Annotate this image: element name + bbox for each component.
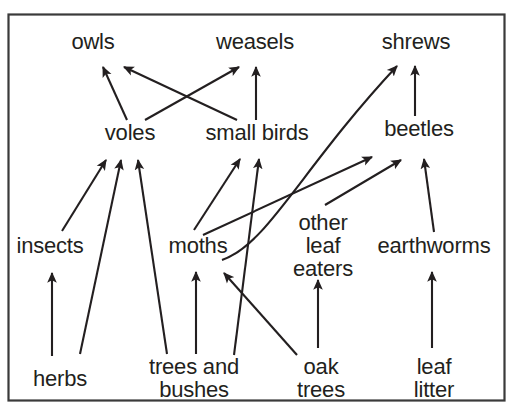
link-trees-bushes-small-birds [234, 159, 259, 355]
node-voles: voles [105, 121, 155, 144]
node-herbs: herbs [33, 367, 87, 390]
node-beetles: beetles [384, 117, 454, 140]
link-small-birds-owls [124, 67, 237, 120]
link-insects-voles [62, 160, 106, 231]
node-moths: moths [169, 234, 228, 257]
node-trees-and-bushes: trees and bushes [149, 355, 239, 401]
node-leaf-litter: leaf litter [414, 355, 454, 401]
link-voles-owls [103, 67, 127, 120]
link-voles-weasels [145, 67, 239, 120]
link-earthworms-beetles [424, 159, 434, 232]
node-oak-trees: oak trees [297, 355, 345, 401]
node-small-birds: small birds [206, 121, 309, 144]
node-insects: insects [16, 234, 83, 257]
link-trees-bushes-voles [138, 160, 167, 354]
node-owls: owls [71, 30, 114, 53]
link-other-leaf-eaters-beetles [325, 160, 401, 205]
node-other-leaf-eaters: other leaf eaters [293, 211, 353, 280]
node-weasels: weasels [216, 30, 294, 53]
node-earthworms: earthworms [378, 234, 491, 257]
link-moths-small-birds [194, 159, 240, 230]
node-shrews: shrews [382, 30, 451, 53]
food-web-links [52, 66, 434, 356]
link-herbs-voles [80, 160, 121, 354]
food-web-diagram: owls weasels shrews voles small birds be… [0, 0, 516, 418]
